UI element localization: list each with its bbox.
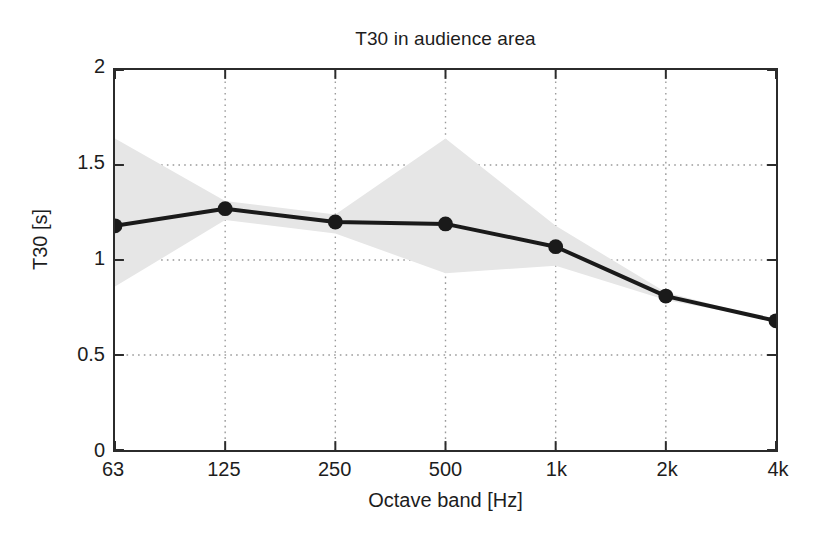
y-tick-label: 1 — [45, 247, 105, 270]
x-tick-label: 125 — [207, 458, 240, 481]
x-tick-label: 63 — [102, 458, 124, 481]
page-title: T30 in audience area — [113, 28, 778, 50]
x-tick-label: 4k — [767, 458, 788, 481]
x-axis-title: Octave band [Hz] — [113, 489, 778, 512]
figure-canvas: T30 in audience area 00.511.52 631252505… — [0, 0, 822, 533]
x-tick-label: 1k — [546, 458, 567, 481]
y-axis-title: T30 [s] — [29, 160, 52, 320]
plot-area — [113, 68, 778, 452]
x-tick-label: 500 — [429, 458, 462, 481]
x-axis-tick-labels: 631252505001k2k4k — [113, 458, 778, 488]
y-tick-label: 2 — [45, 55, 105, 78]
y-tick-label: 1.5 — [45, 151, 105, 174]
x-tick-label: 2k — [657, 458, 678, 481]
y-tick-label: 0.5 — [45, 343, 105, 366]
y-tick-label: 0 — [45, 439, 105, 462]
x-tick-label: 250 — [318, 458, 351, 481]
plot-svg — [115, 70, 776, 450]
